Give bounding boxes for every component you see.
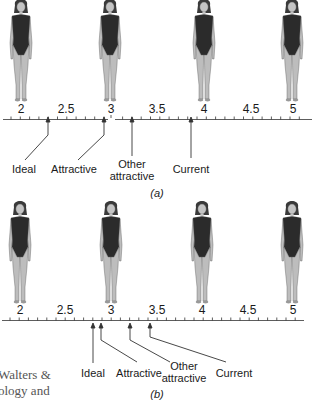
scale-label-3.5: 3.5 xyxy=(149,303,166,317)
scale-label-3.5: 3.5 xyxy=(149,102,166,116)
label-other-line1: Other xyxy=(170,360,198,372)
marker-attractive xyxy=(78,117,106,160)
marker-ideal xyxy=(25,117,50,160)
scale-label-4: 4 xyxy=(199,303,206,317)
markers xyxy=(91,323,226,363)
panel-b: 2 2.5 3 3.5 4 4.5 5 xyxy=(0,200,316,400)
scale-label-5: 5 xyxy=(290,102,297,116)
scale-label-5: 5 xyxy=(290,303,297,317)
figure-3 xyxy=(100,201,122,303)
markers xyxy=(25,117,193,160)
label-ideal: Ideal xyxy=(12,163,36,175)
marker-current xyxy=(189,117,193,158)
label-attractive: Attractive xyxy=(116,367,162,379)
side-text-line1: Walters & xyxy=(0,367,51,382)
scale-label-2.5: 2.5 xyxy=(57,303,74,317)
label-other-line2: attractive xyxy=(162,372,207,384)
figure-4 xyxy=(191,201,213,303)
side-text-line2: ology and xyxy=(0,383,50,398)
scale-label-2: 2 xyxy=(17,303,24,317)
panel-a: 2 2.5 3 3.5 4 4.5 5 xyxy=(0,0,316,200)
scale-label-4: 4 xyxy=(201,102,208,116)
caption-a: (a) xyxy=(150,187,164,199)
figure-4 xyxy=(193,0,215,101)
figure-2 xyxy=(10,0,32,101)
label-other-line2: attractive xyxy=(110,170,155,182)
figure-3 xyxy=(99,0,121,101)
marker-attractive xyxy=(99,323,137,362)
scale-label-3: 3 xyxy=(108,102,115,116)
scale-label-4.5: 4.5 xyxy=(240,303,257,317)
marker-other-attractive xyxy=(128,323,170,362)
caption-b: (b) xyxy=(150,388,164,400)
label-attractive: Attractive xyxy=(51,163,97,175)
label-other-line1: Other xyxy=(118,158,146,170)
panel-a-diagram: 2 2.5 3 3.5 4 4.5 5 xyxy=(0,0,316,200)
scale-label-2.5: 2.5 xyxy=(58,102,75,116)
scale-label-4.5: 4.5 xyxy=(243,102,260,116)
label-ideal: Ideal xyxy=(81,367,105,379)
figure-5 xyxy=(281,0,303,101)
scale-label-2: 2 xyxy=(18,102,25,116)
scale-label-3: 3 xyxy=(108,303,115,317)
label-current: Current xyxy=(173,163,210,175)
scale-axis xyxy=(2,318,304,321)
marker-other-attractive xyxy=(130,117,134,156)
figure-5 xyxy=(281,201,303,303)
label-current: Current xyxy=(216,367,253,379)
figure-2 xyxy=(9,201,31,303)
marker-ideal xyxy=(91,323,95,363)
